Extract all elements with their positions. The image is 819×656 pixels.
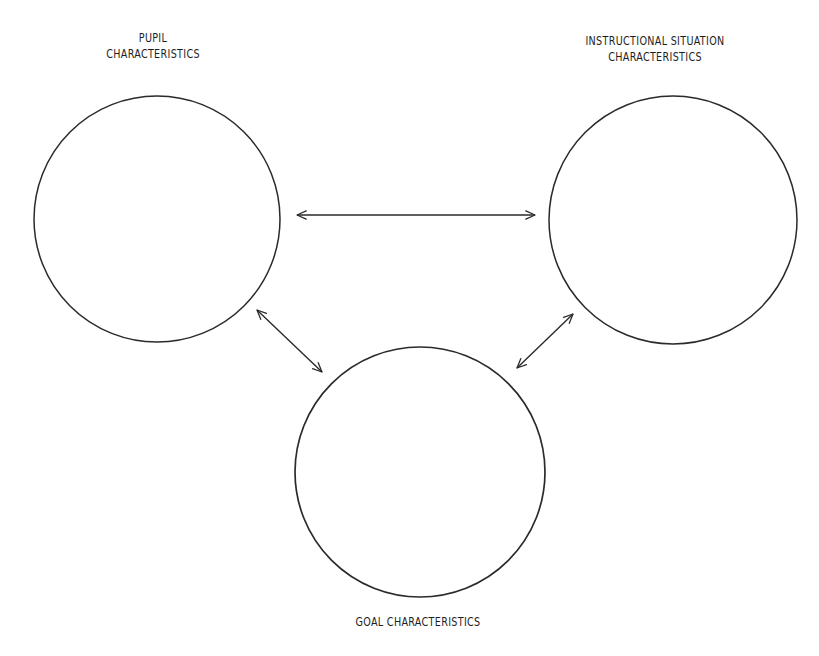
instructional-situation-characteristics-label: INSTRUCTIONAL SITUATION CHARACTERISTICS [561, 33, 750, 65]
instructional-situation-characteristics-circle [549, 96, 797, 344]
goal-label-line-1: GOAL CHARACTERISTICS [336, 614, 500, 630]
instructional-label-line-2: CHARACTERISTICS [561, 49, 750, 65]
pupil-characteristics-label: PUPIL CHARACTERISTICS [71, 30, 235, 62]
instructional-goal-arrow [517, 314, 573, 368]
goal-characteristics-label: GOAL CHARACTERISTICS [336, 614, 500, 630]
pupil-label-line-2: CHARACTERISTICS [71, 46, 235, 62]
instructional-label-line-1: INSTRUCTIONAL SITUATION [561, 33, 750, 49]
diagram-canvas [0, 0, 819, 656]
pupil-goal-arrow [257, 310, 322, 372]
pupil-characteristics-circle [34, 96, 280, 342]
goal-characteristics-circle [295, 347, 545, 597]
pupil-label-line-1: PUPIL [71, 30, 235, 46]
